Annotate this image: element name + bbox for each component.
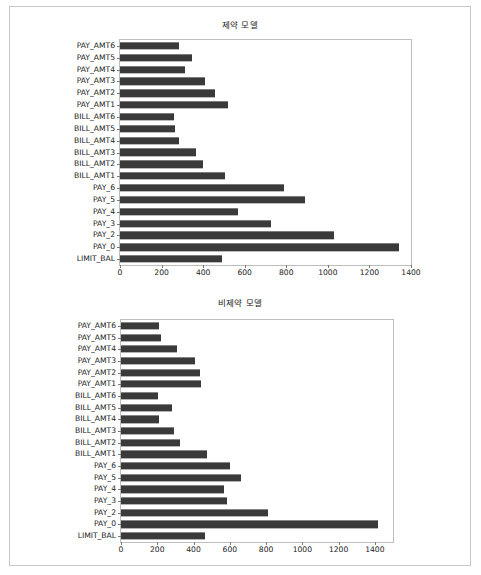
y-label-pay_0: PAY_0 [93,243,115,251]
plot-area-unconstrained: PAY_AMT6PAY_AMT5PAY_AMT4PAY_AMT3PAY_AMT2… [120,319,394,543]
y-label-pay_amt4: PAY_AMT4 [78,345,116,353]
x-tick-label-600: 600 [223,546,238,554]
chart-title-constrained: 제약 모델 [10,18,470,30]
bar-row [120,76,411,88]
y-label-bill_amt5: BILL_AMT5 [75,404,116,412]
y-tick-mark [117,200,120,201]
bar-row [120,194,411,206]
bar-row [120,135,411,147]
bar-bill_amt5 [121,404,172,411]
y-label-pay_5: PAY_5 [94,474,116,482]
bar-pay_amt5 [121,334,161,341]
y-tick-mark [117,129,120,130]
bar-bill_amt3 [121,427,174,434]
y-label-pay_amt5: PAY_AMT5 [77,54,115,62]
y-label-bill_amt4: BILL_AMT4 [75,416,116,424]
x-tick-label-600: 600 [237,269,252,277]
bar-pay_4 [120,208,238,215]
y-tick-mark [118,478,121,479]
y-tick-mark [117,46,120,47]
y-label-pay_3: PAY_3 [93,220,115,228]
x-tick-label-400: 400 [196,269,211,277]
x-tick-label-0: 0 [119,546,124,554]
bar-row [120,206,411,218]
bar-pay_3 [121,497,227,504]
y-label-pay_6: PAY_6 [93,184,115,192]
bar-row [121,332,393,344]
bar-limit_bal [121,533,205,540]
bar-pay_amt4 [120,66,185,73]
y-tick-mark [118,373,121,374]
x-tick-label-0: 0 [118,269,123,277]
bar-bill_amt3 [120,149,196,156]
bar-row [121,320,393,332]
bar-row [120,64,411,76]
bar-pay_amt4 [121,346,177,353]
y-label-pay_6: PAY_6 [94,462,116,470]
y-tick-mark [118,501,121,502]
plot-area-constrained: PAY_AMT6PAY_AMT5PAY_AMT4PAY_AMT3PAY_AMT2… [119,39,412,266]
bar-row [120,87,411,99]
y-label-pay_2: PAY_2 [93,232,115,240]
y-label-bill_amt3: BILL_AMT3 [74,149,115,157]
y-tick-mark [117,141,120,142]
x-tick-label-200: 200 [154,269,169,277]
bar-pay_6 [120,184,284,191]
bar-pay_amt2 [121,369,200,376]
y-tick-mark [118,326,121,327]
bar-row [121,402,393,414]
y-tick-mark [118,384,121,385]
bar-pay_6 [121,462,230,469]
bar-row [120,147,411,159]
bar-bill_amt6 [120,113,174,120]
y-tick-mark [118,431,121,432]
bar-bill_amt1 [121,451,207,458]
x-tick-label-1200: 1200 [329,546,348,554]
y-label-bill_amt3: BILL_AMT3 [75,427,116,435]
bar-row [121,343,393,355]
bar-row [121,530,393,542]
bar-pay_amt6 [121,322,159,329]
y-label-pay_amt3: PAY_AMT3 [77,78,115,86]
y-label-limit_bal: LIMIT_BAL [78,532,116,540]
bar-row [120,218,411,230]
bar-row [121,413,393,425]
x-tick-label-400: 400 [186,546,201,554]
bar-row [120,52,411,64]
bar-bill_amt2 [120,161,203,168]
y-tick-mark [118,419,121,420]
y-label-bill_amt5: BILL_AMT5 [74,125,115,133]
y-tick-mark [117,81,120,82]
bar-row [121,449,393,461]
y-tick-mark [118,536,121,537]
bar-bill_amt4 [120,137,179,144]
bar-row [120,253,411,265]
y-tick-mark [118,349,121,350]
bar-pay_amt1 [121,381,201,388]
bar-row [120,158,411,170]
bar-bill_amt6 [121,392,158,399]
bar-row [121,484,393,496]
chart-panel-unconstrained: 비제약 모델 PAY_AMT6PAY_AMT5PAY_AMT4PAY_AMT3P… [10,289,470,565]
bar-row [121,437,393,449]
y-tick-mark [118,489,121,490]
bar-pay_2 [120,232,334,239]
y-label-bill_amt2: BILL_AMT2 [75,439,116,447]
bar-pay_amt3 [120,78,205,85]
bar-row [120,229,411,241]
bar-bill_amt2 [121,439,180,446]
y-tick-mark [117,58,120,59]
y-label-pay_2: PAY_2 [94,509,116,517]
bar-pay_2 [121,509,268,516]
y-label-pay_5: PAY_5 [93,196,115,204]
y-label-pay_3: PAY_3 [94,497,116,505]
x-tick-label-1400: 1400 [401,269,420,277]
y-tick-mark [117,117,120,118]
x-tick-label-200: 200 [150,546,165,554]
x-tick-label-800: 800 [259,546,274,554]
y-label-pay_amt6: PAY_AMT6 [77,42,115,50]
y-tick-mark [117,176,120,177]
y-label-pay_amt1: PAY_AMT1 [78,380,116,388]
bar-row [121,367,393,379]
bar-row [121,460,393,472]
